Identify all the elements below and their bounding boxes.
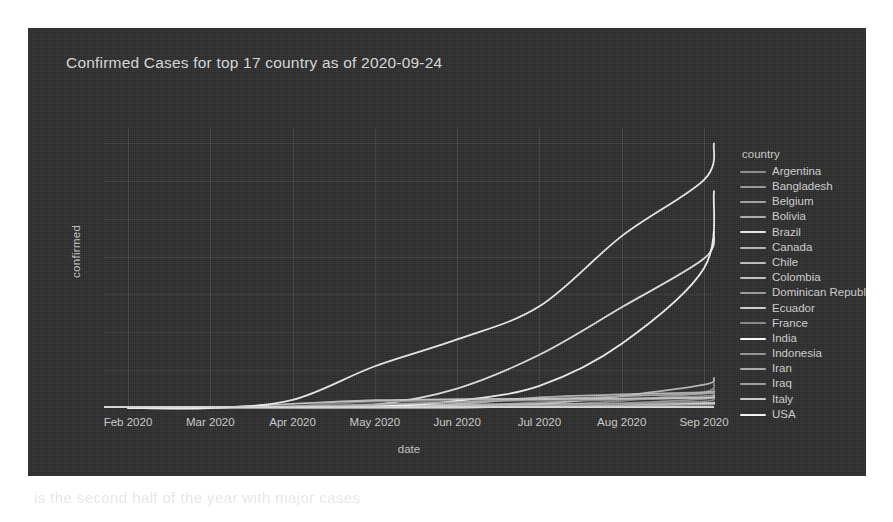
legend-item[interactable]: USA <box>740 407 866 422</box>
legend-item[interactable]: Iraq <box>740 377 866 392</box>
legend-swatch-icon <box>740 368 766 370</box>
plot-area: Feb 2020Mar 2020Apr 2020May 2020Jun 2020… <box>104 128 714 408</box>
legend-item-label: Iraq <box>772 378 792 390</box>
legend-item-label: Argentina <box>772 166 821 178</box>
series-line <box>128 232 714 408</box>
legend-item[interactable]: Ecuador <box>740 301 866 316</box>
chart-title: Confirmed Cases for top 17 country as of… <box>66 54 442 72</box>
legend-item[interactable]: Chile <box>740 255 866 270</box>
legend-swatch-icon <box>740 338 766 340</box>
legend-item-label: Iran <box>772 363 792 375</box>
legend-swatch-icon <box>740 353 766 355</box>
legend-item-label: Bolivia <box>772 211 806 223</box>
legend-item[interactable]: Belgium <box>740 194 866 209</box>
legend-swatch-icon <box>740 186 766 188</box>
x-axis-baseline <box>104 406 714 408</box>
legend-item[interactable]: Canada <box>740 240 866 255</box>
legend-item[interactable]: Bolivia <box>740 210 866 225</box>
legend-swatch-icon <box>740 262 766 264</box>
chart-figure: Confirmed Cases for top 17 country as of… <box>28 28 866 476</box>
x-axis-tick-label: Sep 2020 <box>679 416 728 428</box>
legend-item-label: Ecuador <box>772 303 815 315</box>
legend-swatch-icon <box>740 307 766 309</box>
legend-item[interactable]: Indonesia <box>740 346 866 361</box>
x-axis-tick-label: Aug 2020 <box>597 416 646 428</box>
series-line <box>128 191 714 408</box>
legend-swatch-icon <box>740 292 766 294</box>
legend-item-label: Colombia <box>772 272 821 284</box>
legend-item[interactable]: India <box>740 331 866 346</box>
legend-item[interactable]: Bangladesh <box>740 179 866 194</box>
legend-swatch-icon <box>740 201 766 203</box>
legend-swatch-icon <box>740 231 766 233</box>
legend-item-label: USA <box>772 409 796 421</box>
x-axis-tick-label: Jul 2020 <box>518 416 561 428</box>
x-axis-tick-label: Jun 2020 <box>433 416 480 428</box>
legend-item[interactable]: Brazil <box>740 225 866 240</box>
legend-item[interactable]: Colombia <box>740 270 866 285</box>
x-axis-tick-label: Feb 2020 <box>104 416 153 428</box>
page-ghost-text: is the second half of the year with majo… <box>34 489 834 506</box>
legend-swatch-icon <box>740 216 766 218</box>
legend-swatch-icon <box>740 322 766 324</box>
x-axis-label: date <box>398 443 420 455</box>
legend-swatch-icon <box>740 414 766 416</box>
chart-legend: country ArgentinaBangladeshBelgiumBolivi… <box>740 148 866 422</box>
x-axis-tick-label: Apr 2020 <box>269 416 316 428</box>
legend-item-label: Italy <box>772 394 793 406</box>
legend-item-label: Indonesia <box>772 348 822 360</box>
legend-item[interactable]: France <box>740 316 866 331</box>
legend-swatch-icon <box>740 398 766 400</box>
series-layer <box>104 128 714 408</box>
x-axis-tick-label: Mar 2020 <box>186 416 235 428</box>
legend-item-label: Dominican Republic <box>772 287 866 299</box>
legend-item[interactable]: Iran <box>740 361 866 376</box>
legend-swatch-icon <box>740 171 766 173</box>
legend-item[interactable]: Italy <box>740 392 866 407</box>
x-axis-tick-label: May 2020 <box>350 416 401 428</box>
legend-item-label: Chile <box>772 257 798 269</box>
legend-item[interactable]: Argentina <box>740 164 866 179</box>
legend-item-label: Brazil <box>772 227 801 239</box>
legend-item-label: Belgium <box>772 196 814 208</box>
legend-item-label: Bangladesh <box>772 181 833 193</box>
legend-item-label: India <box>772 333 797 345</box>
legend-swatch-icon <box>740 247 766 249</box>
series-line <box>128 144 714 409</box>
legend-item-label: France <box>772 318 808 330</box>
legend-items: ArgentinaBangladeshBelgiumBoliviaBrazilC… <box>740 164 866 422</box>
legend-item[interactable]: Dominican Republic <box>740 286 866 301</box>
legend-item-label: Canada <box>772 242 812 254</box>
legend-swatch-icon <box>740 277 766 279</box>
legend-title: country <box>740 148 866 160</box>
legend-swatch-icon <box>740 383 766 385</box>
y-axis-label: confirmed <box>70 225 82 278</box>
